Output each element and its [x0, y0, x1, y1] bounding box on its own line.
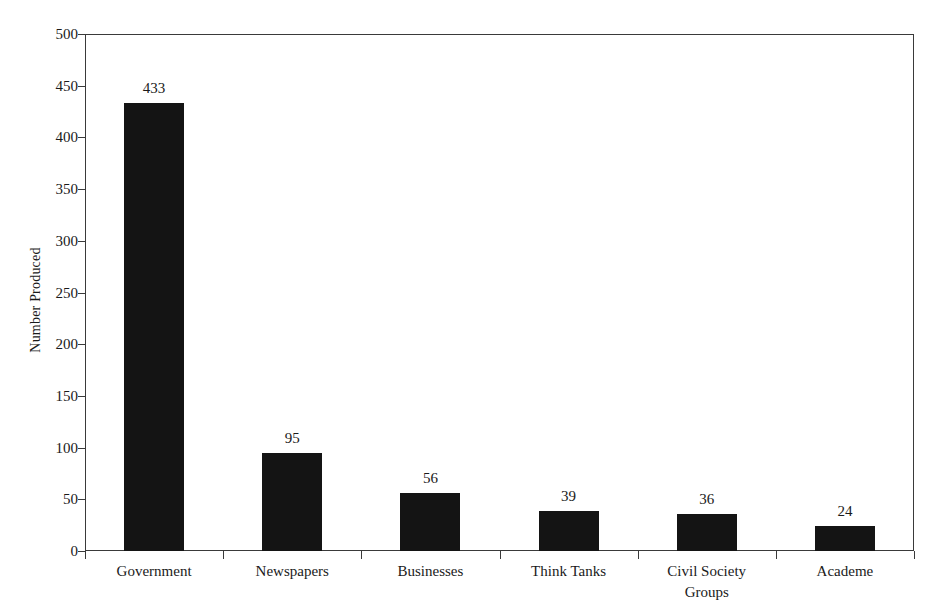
x-category-label: Civil Society Groups [638, 561, 776, 603]
y-tick-label: 450 [0, 76, 78, 96]
bar[interactable] [124, 103, 184, 551]
y-tick-label: 400 [0, 127, 78, 147]
bar-value-label: 433 [143, 79, 166, 97]
x-category-label: Think Tanks [500, 561, 638, 582]
y-tick-label: 250 [0, 283, 78, 303]
x-category-label: Businesses [361, 561, 499, 582]
x-tick-mark [776, 551, 777, 559]
bar[interactable] [400, 493, 460, 551]
x-category-label: Academe [776, 561, 914, 582]
bar-group: 433 [85, 34, 223, 551]
bars-layer: 4339556393624 [85, 34, 914, 551]
bar-value-label: 24 [837, 502, 852, 520]
x-tick-mark [361, 551, 362, 559]
bar-value-label: 56 [423, 469, 438, 487]
x-tick-mark [223, 551, 224, 559]
y-tick-label: 300 [0, 231, 78, 251]
bar-value-label: 39 [561, 487, 576, 505]
y-tick-label: 0 [0, 541, 78, 561]
bar-value-label: 36 [699, 490, 714, 508]
bar-group: 56 [361, 34, 499, 551]
y-tick-label: 200 [0, 334, 78, 354]
bar-group: 39 [500, 34, 638, 551]
bar-group: 95 [223, 34, 361, 551]
x-tick-mark [500, 551, 501, 559]
bar[interactable] [677, 514, 737, 551]
x-tick-mark [914, 551, 915, 559]
bar-group: 24 [776, 34, 914, 551]
x-tick-mark [638, 551, 639, 559]
x-category-label: Government [85, 561, 223, 582]
bar[interactable] [539, 511, 599, 551]
bar-chart: Number Produced 500450400350300250200150… [0, 0, 934, 611]
bar[interactable] [815, 526, 875, 551]
y-tick-label: 500 [0, 24, 78, 44]
y-tick-label: 350 [0, 179, 78, 199]
bar[interactable] [262, 453, 322, 551]
bar-value-label: 95 [285, 429, 300, 447]
y-tick-label: 100 [0, 438, 78, 458]
x-tick-mark [85, 551, 86, 559]
y-tick-label: 50 [0, 489, 78, 509]
x-category-label: Newspapers [223, 561, 361, 582]
y-tick-label: 150 [0, 386, 78, 406]
bar-group: 36 [638, 34, 776, 551]
